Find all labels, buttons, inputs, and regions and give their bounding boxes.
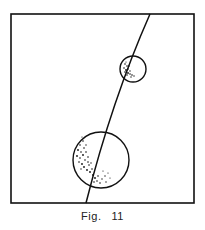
trajectory-curve [86,14,150,203]
figure-diagram [0,0,205,230]
caption-number: 11 [111,210,123,222]
large-circle [73,132,129,188]
frame [11,14,194,203]
figure-caption: Fig.11 [0,210,205,222]
caption-prefix: Fig. [81,210,101,222]
small-circle [120,56,146,82]
